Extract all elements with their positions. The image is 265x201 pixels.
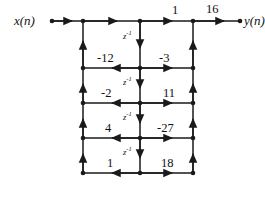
node-right-r4 (191, 171, 196, 176)
node-right-r2 (191, 101, 196, 106)
signal-flow-graph-figure: x(n) y(n) 1 16 z-1 z-1 z-1 z-1 -12 -3 -2… (0, 0, 265, 201)
node-left-top (81, 19, 86, 24)
node-left-r4 (81, 171, 86, 176)
node-mid-r1 (138, 66, 143, 71)
node-mid-r4 (138, 171, 143, 176)
node-right-r1 (191, 66, 196, 71)
flowgraph-svg (0, 0, 265, 201)
node-left-r2 (81, 101, 86, 106)
node-left-r3 (81, 136, 86, 141)
node-left-r1 (81, 66, 86, 71)
node-mid-r3 (138, 136, 143, 141)
node-mid-r2 (138, 101, 143, 106)
node-mid-top (138, 19, 143, 24)
node-right-top (191, 19, 196, 24)
output-node (238, 19, 243, 24)
node-right-r3 (191, 136, 196, 141)
input-node (50, 19, 55, 24)
node-dots (50, 19, 243, 176)
